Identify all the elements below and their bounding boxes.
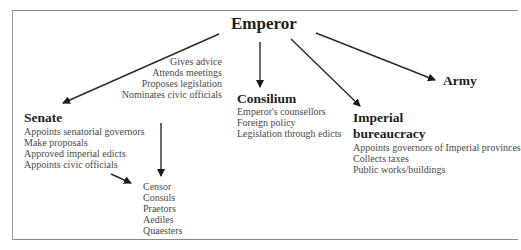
bureaucracy-item: Appoints governors of Imperial provinces (353, 142, 521, 153)
role-item: Attends meetings (100, 67, 222, 78)
consilium-item: Foreign policy (237, 117, 341, 128)
bureaucracy-label-line1: Imperial (353, 110, 426, 126)
magistrate-item: Praetors (143, 203, 182, 214)
bureaucracy-item: Public works/buildings (353, 164, 521, 175)
role-item: Gives advice (100, 56, 222, 67)
consilium-item: Emperor's counsellors (237, 106, 341, 117)
magistrate-item: Aediles (143, 214, 182, 225)
role-item: Nominates civic officials (100, 89, 222, 100)
arrow-emperor-bureaucracy (291, 39, 360, 106)
bureaucracy-item: Collects taxes (353, 153, 521, 164)
node-emperor: Emperor (231, 14, 297, 34)
bureaucracy-label-line2: bureaucracy (353, 126, 426, 142)
node-army: Army (443, 73, 477, 89)
magistrate-item: Consuls (143, 192, 182, 203)
node-consilium: Consilium (237, 91, 296, 107)
senate-item: Make proposals (24, 137, 145, 148)
arrow-emperor-army (316, 33, 435, 80)
node-imperial-bureaucracy: Imperial bureaucracy (353, 110, 426, 142)
role-item: Proposes legislation (100, 78, 222, 89)
magistrates-list: Censor Consuls Praetors Aediles Quaester… (143, 181, 182, 236)
senate-item: Appoints senatorial governors (24, 126, 145, 137)
magistrate-item: Quaesters (143, 225, 182, 236)
arrow-senate-officials (111, 174, 131, 183)
emperor-senate-roles: Gives advice Attends meetings Proposes l… (100, 56, 222, 100)
senate-item: Appoints civic officials (24, 159, 145, 170)
consilium-items: Emperor's counsellors Foreign policy Leg… (237, 106, 341, 139)
bureaucracy-items: Appoints governors of Imperial provinces… (353, 142, 521, 175)
senate-items: Appoints senatorial governors Make propo… (24, 126, 145, 170)
consilium-item: Legislation through edicts (237, 128, 341, 139)
senate-item: Approved imperial edicts (24, 148, 145, 159)
magistrate-item: Censor (143, 181, 182, 192)
node-senate: Senate (24, 110, 62, 126)
